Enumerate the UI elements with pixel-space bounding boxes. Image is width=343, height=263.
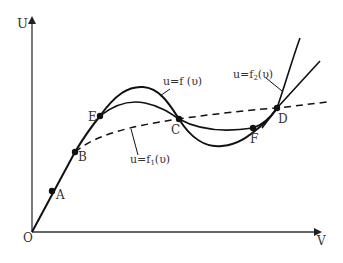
curve-inner — [100, 102, 277, 130]
point-f — [250, 125, 256, 131]
x-axis-label-visible: V — [316, 234, 326, 248]
point-d — [274, 105, 280, 111]
origin-label: O — [23, 231, 33, 245]
y-axis-label: U — [17, 16, 28, 31]
point-e-label: E — [88, 110, 97, 124]
leader-f1 — [131, 129, 138, 155]
point-c-label: C — [171, 123, 180, 137]
diagram-svg: U V V O A B E C F D u=f (υ) — [0, 0, 343, 263]
diagram-canvas: U V V O A B E C F D u=f (υ) — [0, 0, 343, 263]
point-a-label: A — [55, 188, 65, 202]
curve-f1-label: u=f1(υ) — [130, 153, 170, 167]
point-d-label: D — [278, 112, 288, 126]
leader-f — [160, 89, 170, 96]
curve-f-label: u=f (υ) — [163, 75, 202, 88]
point-a — [49, 188, 55, 194]
initial-segment — [32, 116, 100, 232]
point-f-label: F — [250, 132, 258, 146]
point-b-label: B — [78, 150, 87, 164]
point-e — [97, 113, 103, 119]
curve-f-extension — [277, 38, 300, 108]
curve-f2-label: u=f2(υ) — [233, 68, 273, 82]
point-c — [176, 116, 182, 122]
